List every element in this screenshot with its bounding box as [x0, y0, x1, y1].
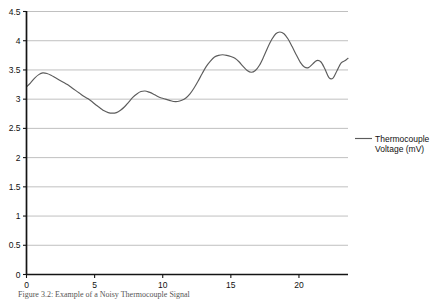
- gridlines: [27, 12, 349, 246]
- figure-caption: Figure 3.2: Example of a Noisy Thermocou…: [18, 290, 191, 299]
- y-tick-label: 2.5: [9, 123, 21, 133]
- data-series-thermocouple-voltage: [27, 32, 349, 113]
- y-tick-label: 0: [16, 270, 21, 280]
- x-tick-label: 10: [158, 280, 168, 290]
- series-line-path: [27, 32, 349, 113]
- x-tick-label: 15: [226, 280, 236, 290]
- thermocouple-line-chart: 00.511.522.533.544.5 05101520 Thermocoup…: [0, 0, 433, 300]
- x-tick-label: 0: [24, 280, 29, 290]
- y-tick-label: 3.5: [9, 65, 21, 75]
- y-tick-label: 1.5: [9, 182, 21, 192]
- x-axis-ticks: 05101520: [24, 275, 304, 290]
- y-tick-label: 4: [16, 36, 21, 46]
- y-tick-label: 3: [16, 94, 21, 104]
- figure-container: 00.511.522.533.544.5 05101520 Thermocoup…: [0, 0, 433, 300]
- legend-label-line1: Thermocouple: [375, 134, 430, 144]
- legend-label-line2: Voltage (mV): [375, 144, 424, 154]
- y-tick-label: 1: [16, 211, 21, 221]
- y-tick-label: 4.5: [9, 7, 21, 17]
- x-tick-label: 5: [92, 280, 97, 290]
- legend: Thermocouple Voltage (mV): [355, 134, 430, 154]
- y-tick-label: 0.5: [9, 240, 21, 250]
- y-axis-ticks: 00.511.522.533.544.5: [9, 7, 27, 280]
- y-tick-label: 2: [16, 153, 21, 163]
- x-tick-label: 20: [294, 280, 304, 290]
